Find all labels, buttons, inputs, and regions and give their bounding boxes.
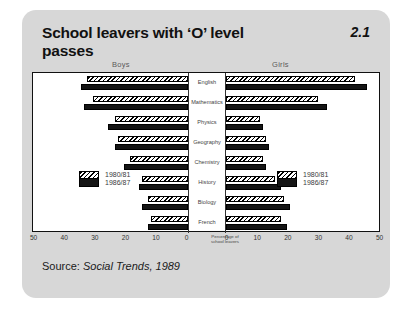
- bar-group-boys: [33, 213, 188, 233]
- bar-boys-1980-81: [130, 156, 188, 163]
- bar-group-girls: [226, 153, 379, 173]
- category-label: Biology: [188, 193, 226, 213]
- bar-girls-1986-87: [226, 124, 263, 131]
- chart-row: Chemistry: [33, 153, 379, 173]
- bar-girls-1986-87: [226, 184, 281, 191]
- chart-row: English: [33, 73, 379, 93]
- axis-tick-left: 40: [61, 234, 68, 241]
- bar-girls-1980-81: [226, 76, 355, 83]
- figure-number: 2.1: [351, 24, 370, 40]
- bar-group-boys: [33, 113, 188, 133]
- bar-boys-1986-87: [84, 104, 188, 111]
- axis-tick-right: 30: [315, 234, 322, 241]
- legend-girls: 1980/81 1986/87: [277, 171, 328, 187]
- bar-girls-1980-81: [226, 156, 263, 163]
- bar-girls-1986-87: [226, 164, 266, 171]
- chart-axis: Percentage of school leavers 50403020100…: [32, 234, 380, 256]
- category-label: Geography: [188, 133, 226, 153]
- axis-tick-left: 0: [185, 234, 189, 241]
- bar-girls-1980-81: [226, 136, 266, 143]
- legend-boys: 1980/81 1986/87: [79, 171, 130, 187]
- source-note: Source: Social Trends, 1989: [42, 260, 180, 272]
- bar-group-girls: [226, 113, 379, 133]
- bar-group-girls: [226, 73, 379, 93]
- bar-boys-1980-81: [148, 196, 188, 203]
- legend-label-1980-81: 1980/81: [105, 171, 130, 179]
- category-label: Chemistry: [188, 153, 226, 173]
- legend-swatches: [277, 171, 297, 187]
- chart-row: French: [33, 213, 379, 233]
- panel-header-boys: Boys: [112, 60, 130, 69]
- bar-group-boys: [33, 133, 188, 153]
- legend-swatch-1980-81-icon: [277, 171, 297, 179]
- figure-card: School leavers with ‘O’ level passes 2.1…: [22, 10, 390, 298]
- bar-girls-1980-81: [226, 216, 281, 223]
- bar-girls-1986-87: [226, 204, 290, 211]
- bar-girls-1986-87: [226, 144, 269, 151]
- bar-girls-1986-87: [226, 224, 287, 231]
- bar-group-boys: [33, 73, 188, 93]
- bar-boys-1986-87: [108, 124, 188, 131]
- category-label: Physics: [188, 113, 226, 133]
- axis-tick-left: 30: [91, 234, 98, 241]
- axis-tick-right: 50: [376, 234, 383, 241]
- category-label: Mathematics: [188, 93, 226, 113]
- bar-boys-1980-81: [142, 176, 188, 183]
- category-label: French: [188, 213, 226, 233]
- bar-boys-1980-81: [151, 216, 188, 223]
- bar-boys-1986-87: [148, 224, 188, 231]
- bar-boys-1980-81: [115, 116, 188, 123]
- chart-row: Mathematics: [33, 93, 379, 113]
- bar-girls-1980-81: [226, 96, 318, 103]
- bar-girls-1986-87: [226, 84, 367, 91]
- chart-plot-area: EnglishMathematicsPhysicsGeographyChemis…: [32, 72, 380, 232]
- legend-labels: 1980/81 1986/87: [105, 171, 130, 187]
- bar-group-girls: [226, 213, 379, 233]
- legend-label-1980-81: 1980/81: [303, 171, 328, 179]
- axis-tick-right: 10: [254, 234, 261, 241]
- bar-girls-1986-87: [226, 104, 327, 111]
- category-label: English: [188, 73, 226, 93]
- bar-boys-1986-87: [81, 84, 188, 91]
- bar-girls-1980-81: [226, 116, 260, 123]
- legend-swatches: [79, 171, 99, 187]
- category-label: History: [188, 173, 226, 193]
- bar-boys-1986-87: [139, 184, 188, 191]
- bar-girls-1980-81: [226, 176, 275, 183]
- bar-boys-1980-81: [118, 136, 188, 143]
- bar-group-girls: [226, 193, 379, 213]
- panel-header-girls: Girls: [272, 60, 289, 69]
- bar-boys-1980-81: [93, 96, 188, 103]
- legend-swatch-1986-87-icon: [277, 179, 297, 187]
- axis-tick-right: 20: [284, 234, 291, 241]
- page-title: School leavers with ‘O’ level passes: [42, 24, 292, 61]
- axis-tick-left: 50: [30, 234, 37, 241]
- axis-tick-left: 10: [152, 234, 159, 241]
- bar-boys-1986-87: [142, 204, 188, 211]
- legend-swatch-1980-81-icon: [79, 171, 99, 179]
- bar-group-boys: [33, 153, 188, 173]
- axis-tick-right: 0: [225, 234, 229, 241]
- bar-boys-1986-87: [115, 144, 188, 151]
- legend-label-1986-87: 1986/87: [105, 179, 130, 187]
- chart-row: Biology: [33, 193, 379, 213]
- source-publication: Social Trends, 1989: [83, 260, 180, 272]
- chart-rows: EnglishMathematicsPhysicsGeographyChemis…: [33, 73, 379, 231]
- bar-boys-1986-87: [124, 164, 188, 171]
- legend-label-1986-87: 1986/87: [303, 179, 328, 187]
- bar-group-girls: [226, 93, 379, 113]
- bar-group-boys: [33, 193, 188, 213]
- axis-tick-left: 20: [122, 234, 129, 241]
- bar-group-boys: [33, 93, 188, 113]
- legend-swatch-1986-87-icon: [79, 179, 99, 187]
- legend-labels: 1980/81 1986/87: [303, 171, 328, 187]
- chart-row: Geography: [33, 133, 379, 153]
- bar-group-girls: [226, 133, 379, 153]
- axis-tick-right: 40: [345, 234, 352, 241]
- chart-row: Physics: [33, 113, 379, 133]
- bar-girls-1980-81: [226, 196, 284, 203]
- bar-boys-1980-81: [87, 76, 188, 83]
- source-prefix: Source:: [42, 260, 83, 272]
